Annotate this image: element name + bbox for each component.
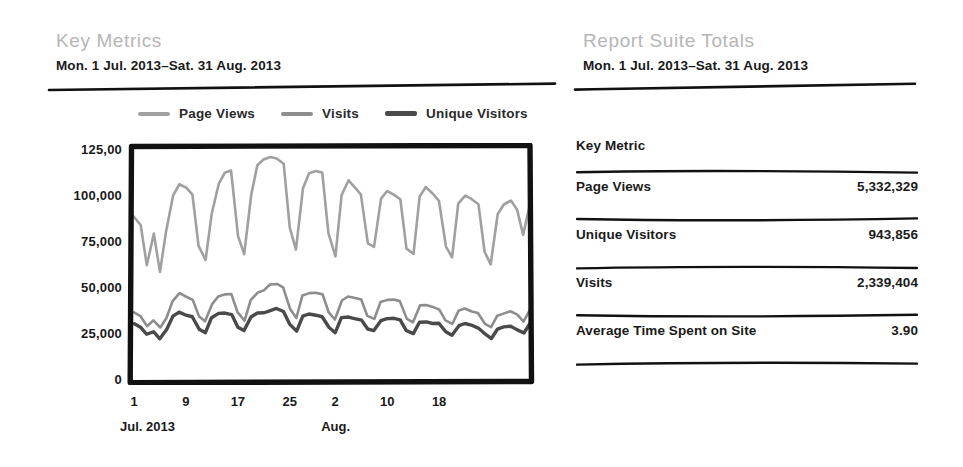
x-axis-month-label: Aug. (321, 419, 350, 434)
table-row[interactable]: Unique Visitors 943,856 (576, 210, 918, 258)
table-rule-4 (576, 354, 918, 372)
dashboard-page: Key Metrics Mon. 1 Jul. 2013–Sat. 31 Aug… (0, 0, 963, 467)
right-panel-date-range: Mon. 1 Jul. 2013–Sat. 31 Aug. 2013 (583, 58, 808, 73)
x-tick-label: 2 (332, 394, 339, 409)
table-header-row: Key Metric (576, 128, 918, 162)
x-tick-label: 25 (283, 394, 297, 409)
x-axis-month-label: Jul. 2013 (120, 419, 175, 434)
x-tick-label: 10 (380, 394, 394, 409)
table-header-key-metric: Key Metric (576, 138, 645, 153)
row-value-unique-visitors: 943,856 (869, 227, 919, 242)
row-value-page-views: 5,332,329 (857, 179, 918, 194)
row-value-average-time-spent-on-site: 3.90 (891, 323, 918, 338)
row-label-unique-visitors: Unique Visitors (576, 227, 676, 242)
table-row[interactable]: Page Views 5,332,329 (576, 162, 918, 210)
table-row[interactable]: Average Time Spent on Site 3.90 (576, 306, 918, 354)
row-label-visits: Visits (576, 275, 612, 290)
chart-x-axis: 19172521018Jul. 2013Aug. (0, 0, 560, 440)
key-metrics-chart: 025,00050,00075,000100,000125,00 1917252… (0, 0, 560, 440)
table-row[interactable]: Visits 2,339,404 (576, 258, 918, 306)
row-label-page-views: Page Views (576, 179, 651, 194)
report-suite-totals-table: Key Metric Page Views 5,332,329 Unique V… (576, 128, 918, 354)
row-value-visits: 2,339,404 (857, 275, 918, 290)
x-tick-label: 17 (231, 394, 245, 409)
row-label-average-time-spent-on-site: Average Time Spent on Site (576, 323, 756, 338)
x-tick-label: 1 (130, 394, 137, 409)
right-panel-title: Report Suite Totals (583, 30, 755, 52)
x-tick-label: 9 (182, 394, 189, 409)
right-panel-divider (574, 82, 916, 92)
x-tick-label: 18 (432, 394, 446, 409)
